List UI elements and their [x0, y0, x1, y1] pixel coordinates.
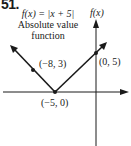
point-0-5 — [94, 51, 98, 55]
point-label-neg8-3: (−8, 3) — [39, 58, 66, 69]
point-label-0-5: (0, 5) — [99, 56, 121, 67]
y-axis-arrow-icon — [93, 19, 99, 28]
y-axis — [93, 19, 99, 146]
x-axis-arrow-icon — [120, 89, 129, 95]
graph — [0, 0, 131, 146]
vertex-label: (−5, 0) — [41, 97, 68, 108]
x-axis — [3, 89, 129, 95]
point-neg8-3 — [31, 68, 35, 72]
vertex-point — [53, 90, 57, 94]
